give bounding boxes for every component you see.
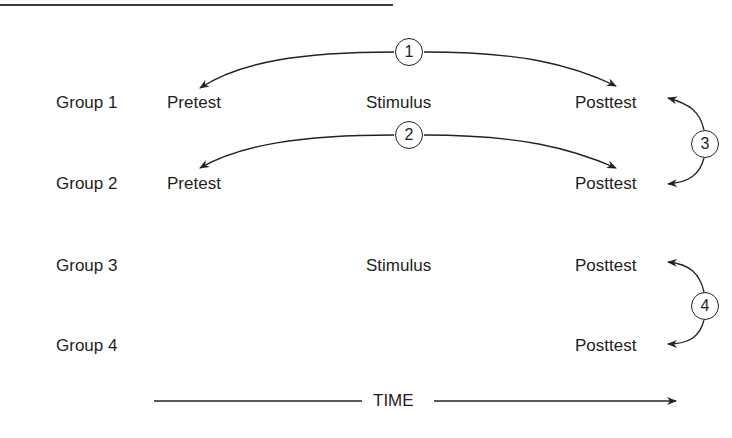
group-3-posttest: Posttest <box>575 256 636 276</box>
group-4-posttest: Posttest <box>575 336 636 356</box>
arrow-comparison-2 <box>200 135 394 168</box>
comparison-arrows <box>0 0 732 438</box>
time-axis-label: TIME <box>373 391 414 411</box>
group-4-label: Group 4 <box>56 336 117 356</box>
comparison-1-badge: 1 <box>395 38 423 66</box>
group-1-label: Group 1 <box>56 93 117 113</box>
group-3-label: Group 3 <box>56 256 117 276</box>
group-3-stimulus: Stimulus <box>366 256 431 276</box>
group-2-label: Group 2 <box>56 174 117 194</box>
group-2-posttest: Posttest <box>575 174 636 194</box>
group-1-stimulus: Stimulus <box>366 93 431 113</box>
arrow-comparison-3 <box>668 98 704 130</box>
arrow-comparison-4 <box>668 262 704 292</box>
comparison-3-badge: 3 <box>691 130 719 158</box>
group-1-posttest: Posttest <box>575 93 636 113</box>
comparison-4-badge: 4 <box>691 292 719 320</box>
group-2-pretest: Pretest <box>167 174 221 194</box>
arrow-comparison-1 <box>200 52 394 88</box>
group-1-pretest: Pretest <box>167 93 221 113</box>
comparison-2-badge: 2 <box>395 121 423 149</box>
